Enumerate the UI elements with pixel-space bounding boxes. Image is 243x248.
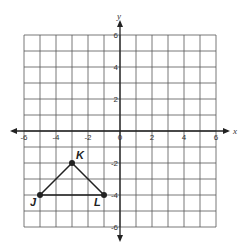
y-tick-label: 4 bbox=[114, 63, 119, 72]
y-tick-label: -4 bbox=[111, 191, 119, 200]
y-tick-label: -6 bbox=[111, 223, 119, 232]
x-tick-label: -6 bbox=[20, 133, 28, 142]
vertex-point-l bbox=[101, 192, 107, 198]
y-tick-label: -2 bbox=[111, 159, 119, 168]
x-arrow-right-icon bbox=[223, 128, 230, 134]
vertex-point-j bbox=[37, 192, 43, 198]
vertex-label-j: J bbox=[30, 196, 37, 208]
x-tick-label: -4 bbox=[52, 133, 60, 142]
y-arrow-up-icon bbox=[117, 20, 123, 27]
x-tick-label: 4 bbox=[182, 133, 187, 142]
vertex-label-l: L bbox=[94, 196, 101, 208]
x-axis-label: x bbox=[232, 126, 237, 136]
axes: xy bbox=[10, 11, 237, 242]
vertex-point-k bbox=[69, 160, 75, 166]
coordinate-plane: xy -6-4-20246642-2-4-6 JKL bbox=[0, 0, 243, 248]
y-tick-label: 2 bbox=[114, 95, 119, 104]
x-tick-label: 0 bbox=[118, 133, 123, 142]
y-arrow-down-icon bbox=[117, 235, 123, 242]
y-tick-label: 6 bbox=[114, 31, 119, 40]
x-tick-label: -2 bbox=[84, 133, 92, 142]
x-tick-label: 6 bbox=[214, 133, 219, 142]
x-tick-label: 2 bbox=[150, 133, 155, 142]
x-arrow-left-icon bbox=[10, 128, 17, 134]
vertex-label-k: K bbox=[76, 149, 85, 161]
triangle-jkl: JKL bbox=[30, 149, 107, 208]
y-axis-label: y bbox=[116, 11, 121, 21]
